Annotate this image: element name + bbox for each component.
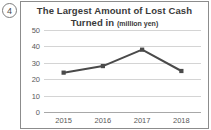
x-tick-label-2018: 2018 [173,116,190,125]
x-tick-label-2016: 2016 [95,116,112,125]
x-tick-label-2015: 2015 [55,116,72,125]
y-tick-label-10: 10 [32,91,40,100]
data-point-2018 [179,69,183,73]
chart-title: The Largest Amount of Lost Cash Turned i… [21,5,208,30]
chart-title-line-2: Turned in (million yen) [21,17,208,30]
y-tick-label-50: 50 [32,26,40,35]
y-tick-label-20: 20 [32,75,40,84]
chart-frame: The Largest Amount of Lost Cash Turned i… [20,1,209,129]
series-line-0 [64,50,182,73]
y-tick-label-40: 40 [32,42,40,51]
data-point-2016 [101,64,105,68]
plot-area: 01020304050 2015201620172018 [44,30,201,112]
data-point-2015 [62,71,66,75]
chart-unit-label: (million yen) [117,20,158,27]
y-tick-label-30: 30 [32,58,40,67]
gridline-0 [44,112,201,113]
data-point-2017 [140,48,144,52]
chart-figure: 4 The Largest Amount of Lost Cash Turned… [0,0,211,130]
chart-title-line-1: The Largest Amount of Lost Cash [21,5,208,17]
line-series [44,30,201,112]
x-tick-label-2017: 2017 [134,116,151,125]
item-number-badge: 4 [2,3,17,18]
chart-title-line-2-text: Turned in [71,17,114,28]
y-tick-label-0: 0 [36,108,40,117]
